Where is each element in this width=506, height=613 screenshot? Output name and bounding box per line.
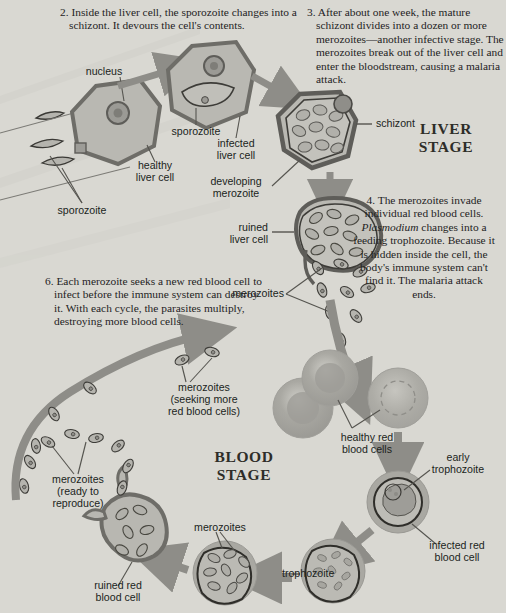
leader-healthy-rbc-a xyxy=(338,400,352,428)
infected-liver-cell-shape xyxy=(168,42,254,128)
label-healthy-red-blood-cells: healthy red blood cells xyxy=(322,432,412,456)
step-6-number: 6. xyxy=(45,275,54,287)
leader-ready-a xyxy=(52,446,74,474)
liver-stage-line2: STAGE xyxy=(398,138,494,156)
label-schizont: schizont xyxy=(376,118,446,130)
infected-red-blood-cell-shape xyxy=(367,471,429,533)
label-merozoites-blood: merozoites xyxy=(180,522,260,534)
schizont-cell-shape xyxy=(278,92,356,168)
label-developing-merozoite: developing merozoite xyxy=(192,176,280,200)
leader-merozoites-liver-a xyxy=(286,268,322,294)
step-4-paragraph: 4. The merozoites invade individual red … xyxy=(352,194,496,301)
label-infected-liver-cell: infected liver cell xyxy=(200,138,272,162)
merozoite-filled-red-cell-shape xyxy=(193,541,257,605)
leader-seeking-a xyxy=(182,366,186,382)
blood-stage-line2: STAGE xyxy=(196,466,292,484)
label-infected-red-blood-cell: infected red blood cell xyxy=(416,540,498,564)
label-ruined-red-blood-cell: ruined red blood cell xyxy=(66,580,170,604)
step-3-number: 3. xyxy=(307,6,316,18)
step-4-text-before: The merozoites invade individual red blo… xyxy=(365,194,484,219)
step-3-paragraph: 3. After about one week, the mature schi… xyxy=(307,6,506,86)
leader-seeking-b xyxy=(190,358,212,382)
step-6-paragraph: 6. Each merozoite seeks a new red blood … xyxy=(45,275,264,329)
blood-stage-heading: BLOOD STAGE xyxy=(196,448,292,484)
label-early-trophozoite: early trophozoite xyxy=(420,452,496,476)
step-4-emphasis: Plasmodium xyxy=(362,221,419,233)
label-healthy-liver-cell: healthy liver cell xyxy=(118,160,192,184)
label-sporozoite-left: sporozoite xyxy=(42,205,122,217)
step-4-number: 4. xyxy=(367,194,376,206)
step-3-text: After about one week, the mature schizon… xyxy=(316,6,504,85)
leader-healthy-rbc-b xyxy=(352,410,380,428)
arrow-to-ruined-rbc xyxy=(158,560,188,570)
label-trophozoite: trophozoite xyxy=(282,568,368,580)
label-merozoites-liver: merozoites xyxy=(206,288,284,300)
label-nucleus: nucleus xyxy=(64,66,144,78)
step-2-number: 2. xyxy=(60,6,69,18)
leader-infected-liver xyxy=(236,116,240,138)
label-merozoites-seeking: merozoites (seeking more red blood cells… xyxy=(150,382,258,417)
step-2-text: Inside the liver cell, the sporozoite ch… xyxy=(69,6,297,31)
arrow-infected-to-schizont xyxy=(252,76,288,96)
blood-stage-line1: BLOOD xyxy=(196,448,292,466)
step-6-text: Each merozoite seeks a new red blood cel… xyxy=(54,275,262,327)
step-2-paragraph: 2. Inside the liver cell, the sporozoite… xyxy=(60,6,297,33)
leader-ready-b xyxy=(78,442,86,474)
label-merozoites-ready: merozoites (ready to reproduce) xyxy=(26,474,130,509)
label-ruined-liver-cell: ruined liver cell xyxy=(194,222,268,246)
healthy-liver-cell-shape xyxy=(72,80,160,164)
